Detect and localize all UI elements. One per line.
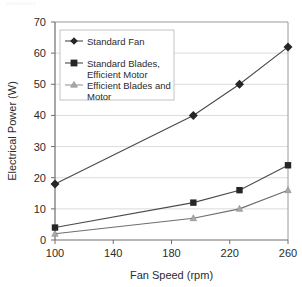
y-tick-label-10: 10 (34, 203, 46, 215)
y-axis-title: Electrical Power (W) (6, 81, 18, 181)
faint-header-text: xxxxxxxxx (6, 0, 36, 6)
legend-label-efficient-blades-and-motor-line1: Efficient Blades and (87, 80, 171, 91)
y-tick-label-20: 20 (34, 172, 46, 184)
x-tick-label-260: 260 (279, 247, 297, 259)
legend-label-efficient-blades-and-motor-line2: Motor (87, 91, 111, 102)
data-point-marker (52, 224, 58, 230)
data-point-marker (190, 199, 196, 205)
y-tick-label-40: 40 (34, 109, 46, 121)
x-tick-label-100: 100 (46, 247, 64, 259)
y-tick-label-50: 50 (34, 78, 46, 90)
legend-label-standard-fan: Standard Fan (87, 36, 145, 47)
x-tick-label-140: 140 (104, 247, 122, 259)
y-tick-label-30: 30 (34, 141, 46, 153)
data-point-marker (285, 162, 291, 168)
data-point-marker (236, 187, 242, 193)
legend-label-standard-blades-efficient-motor-line2: Efficient Motor (87, 69, 148, 80)
x-axis-title: Fan Speed (rpm) (130, 269, 213, 281)
x-tick-label-220: 220 (221, 247, 239, 259)
y-tick-label-70: 70 (34, 16, 46, 28)
legend-marker-square-icon (71, 60, 78, 67)
x-tick-label-180: 180 (162, 247, 180, 259)
line-chart: 70 60 50 40 30 20 10 0 100 140 180 220 2… (0, 0, 302, 287)
legend-label-standard-blades-efficient-motor-line1: Standard Blades, (87, 58, 160, 69)
y-tick-label-0: 0 (40, 234, 46, 246)
chart-legend: Standard Fan Standard Blades, Efficient … (60, 30, 174, 102)
chart-figure: xxxxxxxxx (0, 0, 302, 287)
y-tick-label-60: 60 (34, 47, 46, 59)
x-axis-ticks (55, 240, 288, 244)
